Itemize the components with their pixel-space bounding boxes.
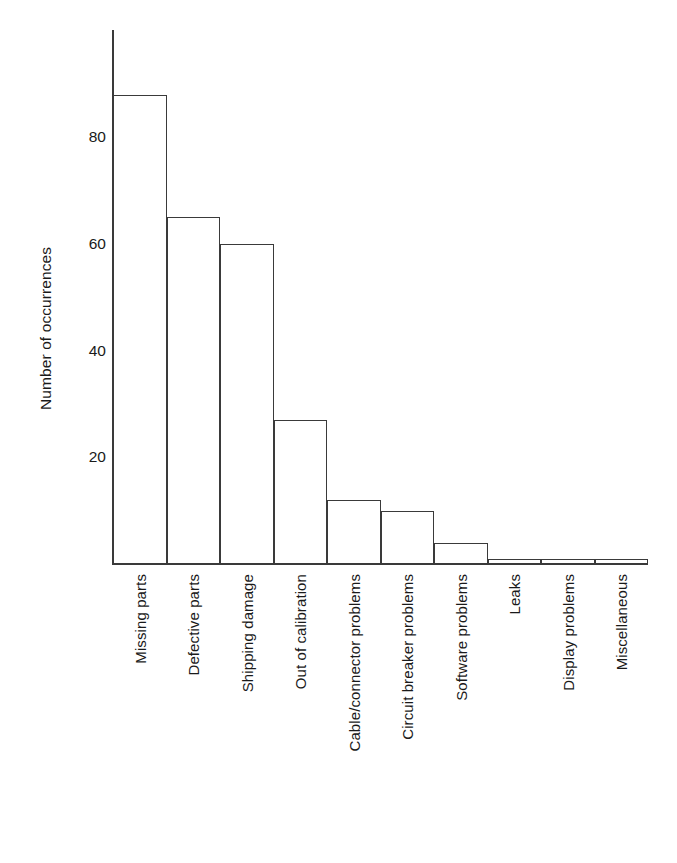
- bar: [595, 559, 649, 564]
- x-category-label: Defective parts: [167, 566, 221, 856]
- x-category-label: Display problems: [541, 566, 595, 856]
- x-category-label: Leaks: [488, 566, 542, 856]
- x-category-label-text: Display problems: [559, 574, 576, 691]
- bar: [167, 217, 221, 564]
- x-category-label: Missing parts: [113, 566, 167, 856]
- x-category-label: Out of calibration: [274, 566, 328, 856]
- bar: [541, 559, 595, 564]
- pareto-chart: Number of occurrences 20406080 Missing p…: [0, 0, 677, 863]
- x-axis-category-labels: Missing partsDefective partsShipping dam…: [113, 566, 648, 856]
- bar: [381, 511, 435, 564]
- bar: [274, 420, 328, 564]
- x-category-label-text: Cable/connector problems: [345, 574, 362, 752]
- x-category-label-text: Leaks: [506, 574, 523, 615]
- x-category-label-text: Out of calibration: [292, 574, 309, 689]
- x-category-label: Shipping damage: [220, 566, 274, 856]
- bar: [327, 500, 381, 564]
- x-category-label: Miscellaneous: [595, 566, 649, 856]
- bar: [113, 95, 167, 564]
- plot-area: [113, 30, 648, 564]
- bar: [220, 244, 274, 564]
- y-tick-label: 20: [58, 448, 106, 466]
- x-category-label-text: Defective parts: [185, 574, 202, 676]
- x-category-label: Circuit breaker problems: [381, 566, 435, 856]
- x-category-label: Software problems: [434, 566, 488, 856]
- x-category-label-text: Shipping damage: [238, 574, 255, 692]
- y-tick-label: 40: [58, 342, 106, 360]
- bar: [488, 559, 542, 564]
- x-category-label-text: Miscellaneous: [613, 574, 630, 670]
- x-category-label-text: Software problems: [452, 574, 469, 701]
- y-tick-label: 60: [58, 235, 106, 253]
- x-category-label-text: Circuit breaker problems: [399, 574, 416, 740]
- x-category-label-text: Missing parts: [131, 574, 148, 664]
- bar: [434, 543, 488, 564]
- x-category-label: Cable/connector problems: [327, 566, 381, 856]
- y-tick-label: 80: [58, 128, 106, 146]
